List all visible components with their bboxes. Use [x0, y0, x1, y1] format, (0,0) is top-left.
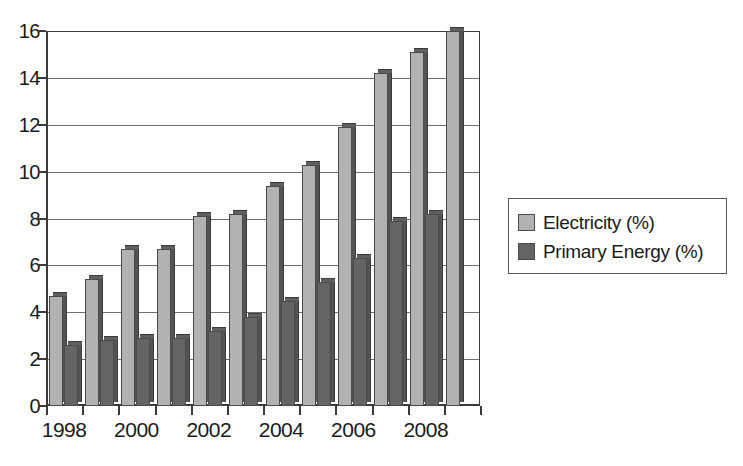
bar-2007-electricity [374, 73, 388, 406]
x-axis-tick [118, 406, 120, 415]
bar-2003-electricity [229, 214, 243, 406]
bars-layer [46, 31, 480, 406]
legend-label-electricity: Electricity (%) [543, 212, 655, 234]
legend-swatch-primary-energy [518, 243, 535, 260]
x-axis-tick [372, 406, 374, 415]
bar-1998-primary-energy [64, 345, 78, 406]
x-axis-tick [299, 406, 301, 415]
chart-legend: Electricity (%) Primary Energy (%) [508, 198, 727, 274]
bar-2000-electricity [121, 249, 135, 406]
bar-2002-electricity [193, 216, 207, 406]
x-axis-label: 2002 [186, 418, 231, 442]
bar-1999-primary-energy [100, 340, 114, 406]
x-axis-tick [408, 406, 410, 415]
bar-2006-electricity [338, 127, 352, 406]
y-axis-tick-label: 16 [19, 20, 40, 43]
y-axis-tick-label: 14 [19, 66, 40, 89]
x-axis-label: 1998 [42, 418, 87, 442]
legend-label-primary-energy: Primary Energy (%) [543, 241, 703, 263]
bar-2005-primary-energy [317, 282, 331, 406]
bar-2009-electricity [446, 31, 460, 406]
x-axis-tick [444, 406, 446, 415]
bar-2003-primary-energy [244, 317, 258, 406]
bar-2006-primary-energy [353, 258, 367, 406]
bar-2004-electricity [266, 186, 280, 406]
bar-2007-primary-energy [389, 221, 403, 406]
legend-item-electricity[interactable]: Electricity (%) [518, 208, 726, 237]
x-axis-ticks [46, 406, 480, 416]
x-axis-labels: 199820002002200420062008 [46, 418, 480, 452]
bar-2008-electricity [410, 52, 424, 406]
y-axis-tick [38, 358, 46, 360]
x-axis-tick [263, 406, 265, 415]
x-axis-tick [46, 406, 48, 415]
bar-2004-primary-energy [281, 301, 295, 406]
bar-2001-electricity [157, 249, 171, 406]
x-axis-label: 2004 [259, 418, 304, 442]
y-axis-tick [38, 405, 46, 407]
x-axis-label: 2008 [403, 418, 448, 442]
x-axis-label: 2006 [331, 418, 376, 442]
y-axis-tick-label: 10 [19, 160, 40, 183]
y-axis-tick [38, 77, 46, 79]
x-axis-tick [155, 406, 157, 415]
legend-item-primary-energy[interactable]: Primary Energy (%) [518, 237, 726, 266]
bar-chart: 0246810121416 199820002002200420062008 E… [0, 0, 743, 466]
x-axis-tick [227, 406, 229, 415]
x-axis-tick [82, 406, 84, 415]
y-axis-tick [38, 264, 46, 266]
y-axis-tick [38, 311, 46, 313]
bar-1998-electricity [49, 296, 63, 406]
bar-2000-primary-energy [136, 338, 150, 406]
y-axis-tick [38, 218, 46, 220]
bar-2001-primary-energy [172, 338, 186, 406]
y-axis-tick-label: 12 [19, 113, 40, 136]
x-axis-tick [480, 406, 482, 415]
x-axis-label: 2000 [114, 418, 159, 442]
x-axis-tick [191, 406, 193, 415]
y-axis-tick [38, 124, 46, 126]
y-axis-tick [38, 30, 46, 32]
y-axis-tick [38, 171, 46, 173]
y-axis: 0246810121416 [0, 31, 40, 406]
bar-2005-electricity [302, 165, 316, 406]
bar-1999-electricity [85, 279, 99, 406]
bar-2002-primary-energy [208, 331, 222, 406]
bar-2008-primary-energy [425, 214, 439, 406]
x-axis-tick [335, 406, 337, 415]
legend-swatch-electricity [518, 214, 535, 231]
